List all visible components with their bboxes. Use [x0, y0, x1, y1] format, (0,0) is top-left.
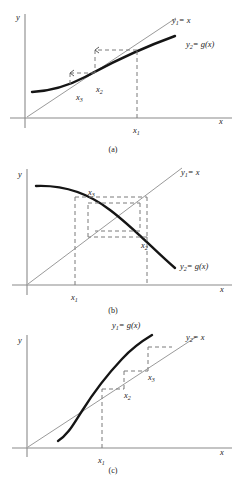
panel-a-point-x3: x3	[75, 92, 83, 103]
figure-root: y x y1= x y2= g(x) x1 x2 x3	[0, 0, 243, 477]
panel-c-point-x3: x3	[147, 372, 155, 383]
panel-b-line-label: y1= x	[180, 167, 200, 178]
panel-c-point-x2: x2	[123, 390, 131, 401]
panel-c-curve-g	[58, 335, 152, 441]
panel-c-caption: (c)	[109, 466, 118, 475]
panel-a-y-axis-label: y	[15, 12, 20, 22]
panel-b-curve-label: y2= g(x)	[179, 261, 208, 272]
panel-b-point-x1: x1	[70, 292, 78, 303]
panel-a-point-x2: x2	[95, 84, 103, 95]
panel-a: y x y1= x y2= g(x) x1 x2 x3	[0, 0, 243, 160]
panel-b-caption: (b)	[108, 306, 118, 315]
panel-a-x-axis-label: x	[218, 116, 223, 126]
panel-c-curve-label: y1= g(x)	[111, 320, 140, 331]
panel-b-plot: y x y1= x y2= g(x) x1 x2 x3	[0, 155, 243, 320]
panel-b-curve-g	[36, 186, 175, 268]
panel-b-point-x3: x3	[87, 187, 95, 198]
panel-c-point-x1: x1	[97, 455, 105, 466]
panel-c-plot: y x y1= g(x) y2= x x1 x2 x3	[0, 315, 243, 477]
panel-a-curve-label: y2= g(x)	[185, 39, 214, 50]
panel-b-y-axis-label: y	[17, 169, 22, 179]
panel-c-y-axis-label: y	[17, 335, 22, 345]
panel-a-plot: y x y1= x y2= g(x) x1 x2 x3	[0, 0, 243, 160]
panel-b: y x y1= x y2= g(x) x1 x2 x3	[0, 155, 243, 320]
panel-c-x-axis-label: x	[219, 447, 224, 457]
panel-b-x-axis-label: x	[219, 284, 224, 294]
panel-a-point-x1: x1	[132, 125, 140, 136]
panel-c-identity-line	[28, 337, 196, 447]
panel-c: y x y1= g(x) y2= x x1 x2 x3	[0, 315, 243, 477]
panel-c-line-label: y2= x	[185, 332, 205, 343]
panel-a-curve-g	[32, 36, 175, 92]
panel-a-caption: (a)	[109, 145, 118, 154]
panel-a-line-label: y1= x	[171, 15, 191, 26]
